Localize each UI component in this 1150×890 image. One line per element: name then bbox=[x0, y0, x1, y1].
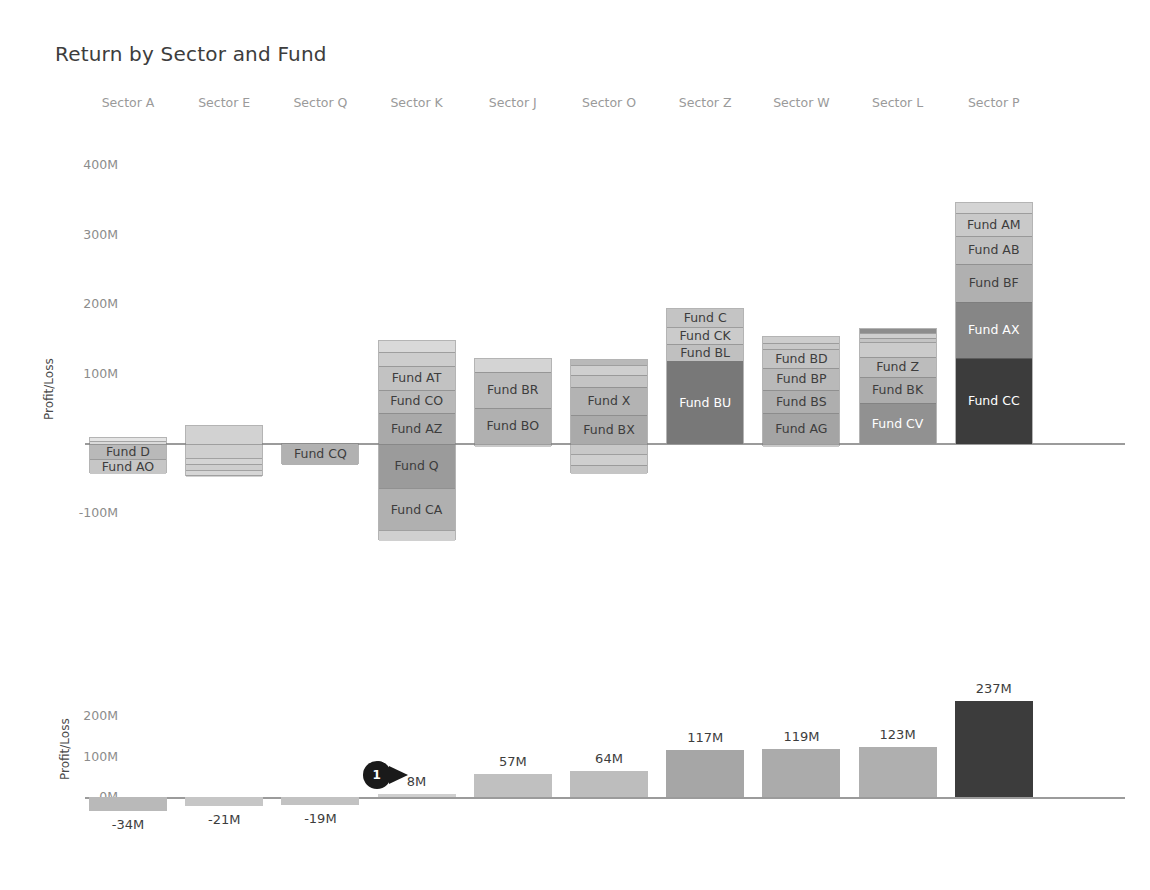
stack-segment-fund-bp[interactable]: Fund BP bbox=[763, 368, 839, 390]
stack-segment-fund-am[interactable]: Fund AM bbox=[956, 213, 1032, 237]
total-bar[interactable] bbox=[570, 771, 648, 797]
annotation-pin[interactable]: 1 bbox=[363, 761, 409, 789]
top-chart-ytick: 400M bbox=[58, 157, 118, 172]
stack-segment-fund-ao[interactable]: Fund AO bbox=[90, 459, 166, 474]
annotation-pin-label: 1 bbox=[363, 761, 391, 789]
stack-segment-fund-bd[interactable]: Fund BD bbox=[763, 349, 839, 368]
bar-value-label: -19M bbox=[260, 811, 380, 826]
stack-segment-fund-z[interactable]: Fund Z bbox=[860, 357, 936, 376]
segment-label: Fund X bbox=[588, 395, 631, 408]
total-bar[interactable] bbox=[378, 794, 456, 797]
stack-segment[interactable] bbox=[379, 352, 455, 366]
segment-label: Fund BK bbox=[872, 384, 923, 397]
stack-segment[interactable] bbox=[571, 365, 647, 375]
total-bar[interactable] bbox=[666, 750, 744, 797]
segment-label: Fund BF bbox=[969, 277, 1019, 290]
total-bar[interactable] bbox=[281, 797, 359, 805]
stack-segment[interactable] bbox=[475, 444, 551, 447]
segment-label: Fund BR bbox=[487, 384, 539, 397]
stack-segment-fund-ab[interactable]: Fund AB bbox=[956, 236, 1032, 264]
stack-segment-fund-bf[interactable]: Fund BF bbox=[956, 264, 1032, 302]
stack-segment[interactable] bbox=[571, 375, 647, 387]
stack-segment-fund-ca[interactable]: Fund CA bbox=[379, 488, 455, 530]
stack-segment-fund-br[interactable]: Fund BR bbox=[475, 372, 551, 408]
top-chart-ytick: 300M bbox=[58, 227, 118, 242]
top-chart-y-axis-title: Profit/Loss bbox=[42, 358, 56, 420]
segment-label: Fund Q bbox=[395, 460, 439, 473]
stack-segment-fund-ck[interactable]: Fund CK bbox=[667, 327, 743, 344]
segment-label: Fund CK bbox=[680, 330, 731, 343]
stacked-bar[interactable]: Fund XFund BX bbox=[570, 359, 648, 473]
segment-label: Fund Z bbox=[876, 361, 919, 374]
top-chart-ytick: -100M bbox=[58, 505, 118, 520]
total-bar[interactable] bbox=[859, 747, 937, 797]
stack-segment-fund-bx[interactable]: Fund BX bbox=[571, 415, 647, 444]
segment-label: Fund CQ bbox=[294, 448, 347, 461]
segment-label: Fund CV bbox=[872, 418, 924, 431]
stacked-bar[interactable]: Fund ATFund COFund AZFund QFund CA bbox=[378, 340, 456, 540]
total-bar[interactable] bbox=[762, 749, 840, 797]
stacked-bar[interactable]: Fund BDFund BPFund BSFund AG bbox=[762, 336, 840, 447]
stack-segment[interactable] bbox=[186, 475, 262, 477]
stack-segment[interactable] bbox=[475, 359, 551, 372]
segment-label: Fund AB bbox=[968, 244, 1019, 257]
stack-segment-fund-bs[interactable]: Fund BS bbox=[763, 390, 839, 414]
stacked-bar[interactable] bbox=[185, 425, 263, 476]
segment-label: Fund BX bbox=[583, 424, 634, 437]
segment-label: Fund BS bbox=[776, 396, 827, 409]
segment-label: Fund AM bbox=[967, 219, 1021, 232]
segment-label: Fund BD bbox=[775, 353, 827, 366]
bar-value-label: 123M bbox=[838, 727, 958, 742]
stacked-bar[interactable]: Fund BRFund BO bbox=[474, 358, 552, 446]
total-bar[interactable] bbox=[955, 701, 1033, 797]
stack-segment-fund-co[interactable]: Fund CO bbox=[379, 390, 455, 413]
segment-label: Fund BP bbox=[776, 373, 826, 386]
bar-value-label: 64M bbox=[549, 751, 669, 766]
stacked-bar[interactable]: Fund ZFund BKFund CV bbox=[859, 328, 937, 443]
stack-segment-fund-az[interactable]: Fund AZ bbox=[379, 413, 455, 444]
stack-segment[interactable] bbox=[956, 203, 1032, 213]
stack-segment[interactable] bbox=[186, 426, 262, 444]
stack-segment-fund-c[interactable]: Fund C bbox=[667, 309, 743, 327]
stack-segment[interactable] bbox=[571, 465, 647, 474]
stacked-bar[interactable]: Fund AMFund ABFund BFFund AXFund CC bbox=[955, 202, 1033, 443]
stack-segment[interactable] bbox=[860, 342, 936, 357]
stack-segment[interactable] bbox=[186, 444, 262, 458]
stack-segment[interactable] bbox=[571, 444, 647, 454]
total-bar[interactable] bbox=[185, 797, 263, 806]
stacked-bar[interactable]: Fund CFund CKFund BLFund BU bbox=[666, 308, 744, 443]
stack-segment-fund-q[interactable]: Fund Q bbox=[379, 444, 455, 488]
stacked-bar[interactable]: Fund CQ bbox=[281, 443, 359, 464]
stack-segment-fund-cc[interactable]: Fund CC bbox=[956, 358, 1032, 444]
stacked-bar[interactable]: Fund DFund AO bbox=[89, 437, 167, 473]
stack-segment[interactable] bbox=[763, 444, 839, 447]
stack-segment-fund-d[interactable]: Fund D bbox=[90, 444, 166, 459]
segment-label: Fund BO bbox=[487, 420, 539, 433]
total-bar[interactable] bbox=[474, 774, 552, 797]
segment-label: Fund AT bbox=[392, 372, 441, 385]
stack-segment-fund-bl[interactable]: Fund BL bbox=[667, 344, 743, 361]
bottom-chart-ytick: 100M bbox=[58, 749, 118, 764]
stack-segment-fund-bo[interactable]: Fund BO bbox=[475, 408, 551, 444]
stack-segment[interactable] bbox=[571, 454, 647, 465]
segment-label: Fund C bbox=[684, 312, 727, 325]
stack-segment-fund-ax[interactable]: Fund AX bbox=[956, 302, 1032, 358]
stack-segment-fund-bu[interactable]: Fund BU bbox=[667, 361, 743, 444]
stack-segment-fund-bk[interactable]: Fund BK bbox=[860, 377, 936, 403]
bottom-chart-ytick: 200M bbox=[58, 708, 118, 723]
stack-segment[interactable] bbox=[379, 530, 455, 541]
stack-segment-fund-x[interactable]: Fund X bbox=[571, 387, 647, 415]
chart-page: Return by Sector and Fund Sector ASector… bbox=[0, 0, 1150, 890]
segment-label: Fund AG bbox=[775, 423, 827, 436]
total-bar[interactable] bbox=[89, 797, 167, 811]
top-chart-ytick: 200M bbox=[58, 296, 118, 311]
sector-header-sector-p: Sector P bbox=[934, 95, 1054, 110]
stack-segment-fund-at[interactable]: Fund AT bbox=[379, 366, 455, 390]
stack-segment-fund-cq[interactable]: Fund CQ bbox=[282, 444, 358, 465]
stack-segment[interactable] bbox=[379, 341, 455, 352]
segment-label: Fund CO bbox=[390, 395, 443, 408]
stack-segment-fund-ag[interactable]: Fund AG bbox=[763, 413, 839, 444]
segment-label: Fund D bbox=[106, 446, 150, 459]
stack-segment-fund-cv[interactable]: Fund CV bbox=[860, 403, 936, 444]
segment-label: Fund CA bbox=[391, 504, 443, 517]
